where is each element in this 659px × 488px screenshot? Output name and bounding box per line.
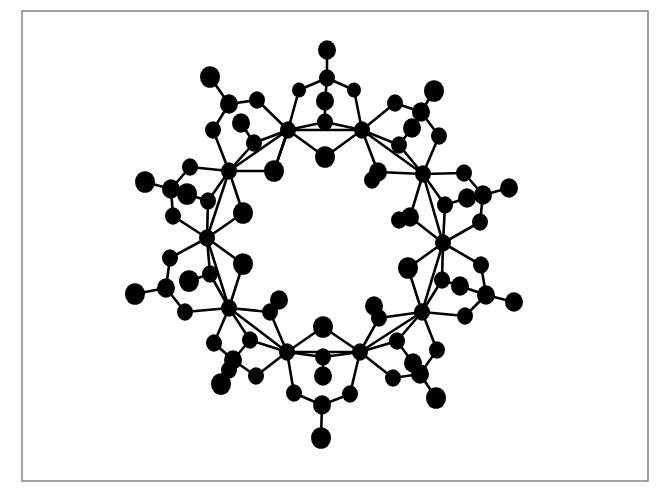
atom-oxygen-g1: [429, 341, 445, 358]
atom-terminal-T3: [424, 80, 444, 102]
atom-metal-M2: [354, 121, 370, 138]
atom-oxygen-c3: [232, 113, 250, 132]
atom-oxygen-d3: [431, 127, 447, 144]
atom-oxygen-j1: [162, 249, 178, 266]
atom-oxygen-d1: [387, 94, 403, 111]
atom-oxygen-c1: [249, 91, 265, 108]
atom-oxygen-f3: [434, 271, 450, 288]
atoms-layer: [125, 40, 523, 449]
atom-carbon-C4: [474, 185, 492, 204]
atom-oxygen-i5: [262, 303, 278, 320]
atom-oxygen-f4: [398, 257, 418, 279]
atom-oxygen-e3: [437, 196, 453, 213]
atom-oxygen-i1: [206, 334, 222, 351]
atom-oxygen-i2: [242, 331, 258, 348]
atom-metal-M5: [414, 303, 430, 320]
atom-oxygen-h3: [313, 316, 333, 338]
atom-oxygen-e1: [456, 164, 472, 181]
atom-oxygen-g3: [389, 332, 405, 349]
atom-carbon-C2: [220, 94, 238, 113]
atom-oxygen-j3: [202, 265, 218, 282]
atom-oxygen-g2: [404, 353, 422, 372]
atom-carbon-C9: [157, 278, 175, 297]
atom-oxygen-e2: [458, 188, 476, 207]
atom-oxygen-h4: [315, 348, 331, 365]
atom-oxygen-k4: [165, 207, 181, 224]
atom-terminal-T6: [426, 387, 446, 409]
atom-terminal-T7: [311, 427, 331, 449]
atom-oxygen-i6: [221, 361, 237, 378]
atom-oxygen-k1: [182, 158, 198, 175]
atom-oxygen-k3: [200, 192, 216, 209]
atom-oxygen-a2: [347, 82, 361, 97]
atom-oxygen-d2: [403, 118, 421, 137]
atom-oxygen-j5: [233, 253, 253, 275]
molecular-structure-figure: [0, 0, 659, 488]
atom-oxygen-i3: [248, 367, 264, 384]
atom-metal-M3: [415, 165, 431, 182]
atom-metal-M1: [280, 121, 296, 138]
atom-oxygen-d6: [364, 171, 380, 188]
atom-oxygen-e4: [472, 213, 488, 230]
atom-oxygen-k5: [233, 202, 253, 224]
atom-carbon-C1: [319, 69, 335, 86]
atom-terminal-T4: [500, 178, 518, 197]
atom-metal-M6: [352, 343, 368, 360]
atom-oxygen-a1: [292, 82, 306, 97]
atom-oxygen-c4: [246, 134, 262, 151]
atom-oxygen-d4: [391, 136, 407, 153]
atom-oxygen-c5: [264, 160, 284, 182]
atom-oxygen-j2: [179, 270, 199, 292]
atom-oxygen-b3: [315, 146, 335, 168]
atom-metal-M8: [221, 299, 237, 316]
atom-terminal-T2: [200, 66, 220, 88]
atom-oxygen-j4: [177, 303, 193, 320]
atom-metal-M4: [435, 234, 451, 251]
atom-oxygen-c2: [205, 121, 221, 138]
atom-oxygen-f2: [451, 276, 469, 295]
atom-oxygen-h1: [286, 384, 302, 401]
atom-carbon-C5: [477, 285, 495, 304]
atom-terminal-T1: [318, 40, 336, 59]
atom-terminal-T5: [505, 292, 523, 311]
atom-metal-M7: [279, 343, 295, 360]
atom-oxygen-f5: [457, 307, 473, 324]
atom-oxygen-b2: [317, 113, 333, 130]
atom-oxygen-e6: [391, 211, 407, 228]
atom-oxygen-g4: [385, 369, 401, 386]
atom-metal-M10: [221, 162, 237, 179]
atom-carbon-C7: [313, 395, 331, 414]
atom-oxygen-h5: [314, 366, 332, 385]
atom-oxygen-k2: [177, 183, 197, 205]
atom-terminal-T10: [135, 171, 155, 193]
atom-metal-M9: [199, 229, 215, 246]
atom-oxygen-f1: [473, 256, 489, 273]
atom-oxygen-g6: [371, 309, 387, 326]
atom-terminal-T9: [125, 283, 145, 305]
atom-oxygen-b1: [316, 91, 334, 110]
atom-oxygen-h2: [342, 385, 358, 402]
